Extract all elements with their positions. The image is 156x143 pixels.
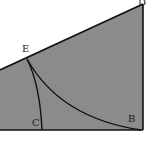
label-b: B [128,113,135,124]
label-c: C [32,117,40,128]
shaded-region [0,4,143,130]
geometry-diagram: D E C B [0,0,156,143]
label-e: E [22,43,29,54]
label-d: D [138,0,146,8]
